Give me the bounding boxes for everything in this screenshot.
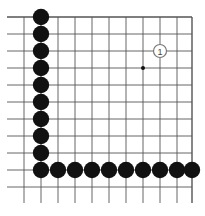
black-stone bbox=[184, 162, 200, 178]
black-stone bbox=[33, 43, 49, 59]
white-stone-1: 1 bbox=[154, 45, 167, 58]
black-stone bbox=[67, 162, 83, 178]
black-stone bbox=[33, 60, 49, 76]
black-stone bbox=[33, 162, 49, 178]
black-stone bbox=[135, 162, 151, 178]
star-point bbox=[141, 66, 145, 70]
black-stone bbox=[118, 162, 134, 178]
go-board: 1 bbox=[0, 0, 205, 216]
black-stone bbox=[33, 26, 49, 42]
black-stone bbox=[169, 162, 185, 178]
black-stone bbox=[50, 162, 66, 178]
move-number-label: 1 bbox=[157, 47, 162, 57]
black-stone bbox=[101, 162, 117, 178]
black-stone bbox=[33, 9, 49, 25]
black-stone bbox=[33, 77, 49, 93]
black-stone bbox=[33, 111, 49, 127]
black-stone bbox=[33, 94, 49, 110]
black-stone bbox=[84, 162, 100, 178]
black-stone bbox=[33, 145, 49, 161]
black-stone bbox=[33, 128, 49, 144]
black-stone bbox=[152, 162, 168, 178]
